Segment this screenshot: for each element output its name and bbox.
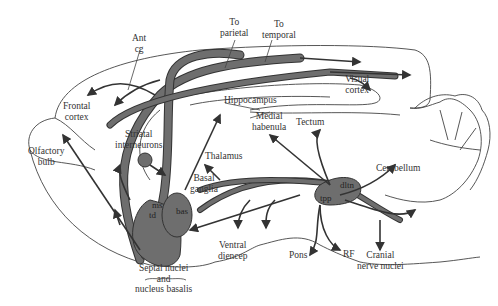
label-septal-nuclei: Septal nucleiandnucleus basalis: [135, 263, 192, 295]
label-rf: RF: [343, 249, 355, 260]
label-basal-ganglia: Basalganglia: [190, 173, 218, 194]
label-frontal-cortex: Frontalcortex: [63, 101, 90, 122]
label-medial-habenula: Medialhabenula: [252, 111, 286, 132]
label-bas: bas: [176, 206, 188, 216]
label-tpp: tpp: [320, 193, 332, 203]
label-thalamus: Thalamus: [205, 151, 242, 162]
cerebellum-outline: [415, 95, 490, 190]
brain-pathway-diagram: Antcg Toparietal Totemporal Visualcortex…: [0, 0, 498, 306]
label-striatal-interneurons: Striatalinterneurons: [115, 129, 163, 150]
label-ant-cg: Antcg: [132, 33, 146, 54]
label-dltn: dltn: [340, 180, 354, 190]
label-to-parietal: Toparietal: [220, 17, 248, 38]
label-to-temporal: Totemporal: [262, 19, 296, 40]
label-visual-cortex: Visualcortex: [345, 74, 369, 95]
label-cranial-nerve-nuclei: Cranialnerve nuclei: [357, 250, 404, 271]
label-tectum: Tectum: [296, 117, 324, 128]
label-hippocampus: Hippocampus: [224, 95, 277, 106]
label-ventral-diencep: Ventraldiencep: [218, 240, 248, 261]
diagram-canvas: [0, 0, 498, 306]
label-ms: ms: [152, 200, 163, 210]
label-td: td: [149, 210, 156, 220]
label-pons: Pons: [289, 250, 307, 261]
label-olfactory-bulb: Olfactorybulb: [28, 146, 64, 167]
label-cerebellum: Cerebellum: [376, 163, 420, 174]
